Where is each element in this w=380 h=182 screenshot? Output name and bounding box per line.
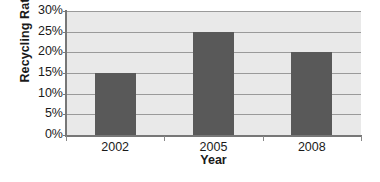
y-axis-tick-labels: 0%5%10%15%20%25%30% (19, 0, 63, 182)
x-axis-tick-mark (361, 136, 362, 141)
y-axis-tick-label: 30% (23, 4, 63, 17)
y-axis-tick-label: 20% (23, 45, 63, 58)
y-axis-tick-label: 15% (23, 66, 63, 79)
bar-chart: Recycling Rate 0%5%10%15%20%25%30% 20022… (0, 0, 380, 182)
y-axis-tick-label: 5% (23, 107, 63, 120)
gridline (66, 11, 361, 12)
x-axis-title: Year (66, 153, 361, 168)
bar (95, 73, 136, 135)
y-axis-tick-label: 0% (23, 128, 63, 141)
plot-area (66, 11, 361, 135)
bar (291, 52, 332, 135)
y-axis-line (65, 10, 67, 136)
bar (193, 32, 234, 135)
y-axis-tick-label: 10% (23, 87, 63, 100)
y-axis-tick-label: 25% (23, 25, 63, 38)
x-axis-line (65, 135, 362, 137)
